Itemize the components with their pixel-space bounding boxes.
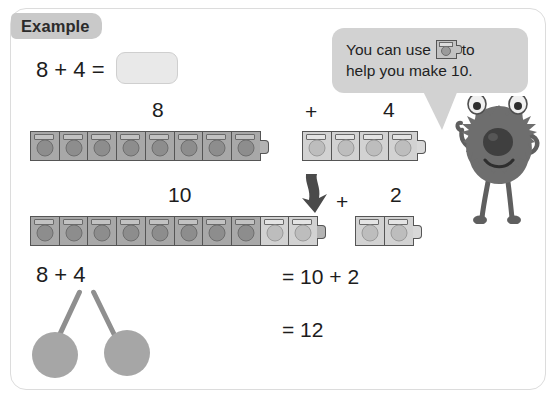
answer-input-box[interactable] <box>116 52 178 84</box>
cube <box>87 131 117 161</box>
worksheet-page: Example 8 + 4 = 8 + 4 10 + 2 <box>0 0 556 405</box>
cube-stud-icon <box>94 139 111 156</box>
cube <box>145 131 175 161</box>
example-badge: Example <box>11 13 102 39</box>
working-line-1: = 10 + 2 <box>282 265 359 289</box>
bond-circle-left[interactable] <box>32 332 78 378</box>
cube <box>59 131 89 161</box>
working-line-2: = 12 <box>282 318 323 342</box>
cube-train-4 <box>302 131 426 161</box>
cube <box>260 216 290 246</box>
cube-stud-icon <box>237 139 254 156</box>
cube <box>116 131 146 161</box>
cube-connector-nub <box>456 45 462 54</box>
cube <box>174 216 204 246</box>
cube <box>231 131 261 161</box>
cube <box>59 216 89 246</box>
linking-cube-icon <box>436 40 457 59</box>
cube-stud-icon <box>266 224 283 241</box>
cube-stud-icon <box>123 224 140 241</box>
cube-stud-icon <box>180 139 197 156</box>
cube <box>359 131 389 161</box>
cube <box>231 216 261 246</box>
speech-bubble: You can use to help you make 10. <box>332 28 528 93</box>
cube <box>30 131 60 161</box>
cube-stud-icon <box>65 139 82 156</box>
label-train-10: 10 <box>168 183 191 207</box>
cube-stud-icon <box>390 224 407 241</box>
cube <box>202 131 232 161</box>
monster-foot-left <box>473 216 487 225</box>
label-train-2: 2 <box>390 183 402 207</box>
cube-stud-icon <box>309 139 326 156</box>
cube-stud-icon <box>237 224 254 241</box>
cube-connector-nub <box>417 140 426 154</box>
example-badge-label: Example <box>21 17 90 36</box>
cube-stud-icon <box>151 139 168 156</box>
cube-stud-icon <box>209 139 226 156</box>
cube <box>116 216 146 246</box>
cube-stud-icon <box>395 139 412 156</box>
speech-bubble-line-2: help you make 10. <box>346 60 516 81</box>
equation-prompt: 8 + 4 = <box>36 57 105 83</box>
cube <box>174 131 204 161</box>
cube-stud-icon <box>295 224 312 241</box>
monster-foot-right <box>507 216 521 225</box>
curved-down-arrow-icon <box>300 172 334 214</box>
cube-stud-icon <box>441 46 451 56</box>
cube-connector-nub <box>413 225 422 239</box>
bond-stem-right <box>90 289 117 338</box>
label-plus-bottom: + <box>336 190 348 214</box>
number-bond <box>24 278 164 382</box>
monster-character <box>452 96 548 224</box>
cube-connector-nub <box>260 140 269 154</box>
speech-bubble-line-1: You can use to <box>346 39 516 60</box>
cube-stud-icon <box>37 224 54 241</box>
cube <box>30 216 60 246</box>
label-train-4: 4 <box>383 98 395 122</box>
cube-stud-icon <box>366 139 383 156</box>
cube <box>384 216 414 246</box>
cube-stud-icon <box>37 139 54 156</box>
cube <box>145 216 175 246</box>
label-train-8: 8 <box>152 98 164 122</box>
cube <box>331 131 361 161</box>
cube-stud-icon <box>151 224 168 241</box>
bond-circle-right[interactable] <box>104 330 150 376</box>
cube-train-10 <box>30 216 326 246</box>
cube-connector-nub <box>317 225 326 239</box>
cube <box>355 216 385 246</box>
label-plus-top: + <box>305 100 317 124</box>
cube-stud-icon <box>362 224 379 241</box>
cube <box>202 216 232 246</box>
cube <box>288 216 318 246</box>
speech-bubble-text-before: You can use <box>346 39 431 60</box>
monster-nose <box>483 128 513 156</box>
cube <box>388 131 418 161</box>
cube-train-8 <box>30 131 269 161</box>
cube-stud-icon <box>123 139 140 156</box>
cube-stud-icon <box>94 224 111 241</box>
cube-train-2 <box>355 216 422 246</box>
cube-stud-icon <box>337 139 354 156</box>
cube-stud-icon <box>209 224 226 241</box>
cube-stud-icon <box>65 224 82 241</box>
cube <box>302 131 332 161</box>
cube <box>87 216 117 246</box>
speech-bubble-text-after: to <box>462 39 475 60</box>
cube-stud-icon <box>180 224 197 241</box>
